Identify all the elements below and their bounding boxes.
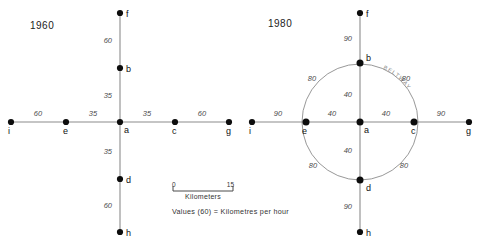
node-i-1980[interactable] [249,119,255,125]
node-f-1980[interactable] [357,10,363,16]
node-label-a-1980: a [364,125,369,135]
node-i-1960[interactable] [8,119,14,125]
edge-label-a-d-1980: 40 [344,146,353,155]
node-label-c-1980: c [411,126,416,136]
scale-bar-caption: Kilometers [185,193,221,200]
beltway-value-ne-1980: 80 [402,74,411,83]
edge-label-c-g-1980: 90 [437,109,446,118]
network-diagram-svg: 1960 60 35 35 60 60 35 35 60 f [0,0,481,250]
transport-network-figure: 1960 60 35 35 60 60 35 35 60 f [0,0,481,250]
node-label-e-1980: e [302,126,307,136]
edge-label-e-a-1960: 35 [89,109,98,118]
edge-label-f-b-1980: 90 [344,34,353,43]
node-label-d-1960: d [126,175,131,185]
node-label-h-1980: h [366,228,371,238]
beltway-value-se-1980: 80 [400,161,409,170]
node-label-c-1960: c [172,126,177,136]
node-h-1980[interactable] [357,229,363,235]
node-label-d-1980: d [366,183,371,193]
node-label-f-1980: f [366,9,369,19]
beltway-value-nw-1980: 80 [308,74,317,83]
node-b-1960[interactable] [117,65,123,71]
node-c-1960[interactable] [172,119,178,125]
node-e-1960[interactable] [63,119,69,125]
node-a-1980[interactable] [357,119,364,126]
node-label-b-1960: b [126,64,131,74]
node-label-f-1960: f [126,9,129,19]
panel-1960-year-label: 1960 [30,20,54,31]
node-b-1980[interactable] [357,60,364,67]
edge-label-e-a-1980: 40 [328,109,337,118]
edge-label-f-b-1960: 60 [104,36,113,45]
node-label-a-1960: a [124,125,129,135]
edge-label-b-a-1960: 35 [104,91,113,100]
legend-note: Values (60) = Kilometres per hour [172,207,289,216]
node-label-b-1980: b [366,53,371,63]
edge-label-c-g-1960: 60 [198,109,207,118]
node-d-1980[interactable] [357,177,364,184]
node-h-1960[interactable] [117,229,123,235]
node-e-1980[interactable] [303,119,310,126]
node-c-1980[interactable] [411,119,418,126]
edge-label-a-c-1960: 35 [143,109,152,118]
node-label-g-1960: g [226,126,231,136]
node-label-g-1980: g [466,126,471,136]
node-g-1960[interactable] [226,119,232,125]
panel-1980-year-label: 1980 [268,18,292,29]
node-g-1980[interactable] [466,119,472,125]
node-d-1960[interactable] [117,176,123,182]
node-label-i-1980: i [249,126,251,136]
beltway-value-sw-1980: 80 [309,161,318,170]
edge-label-i-e-1980: 90 [274,109,283,118]
edge-label-a-d-1960: 35 [104,147,113,156]
node-label-e-1960: e [63,126,68,136]
scale-bar: 0 15 Kilometers [172,181,234,200]
panel-1980: 1980 BELTWAY 80 80 80 80 [249,9,472,238]
edge-label-d-h-1960: 60 [104,201,113,210]
edge-label-b-a-1980: 40 [344,90,353,99]
node-f-1960[interactable] [117,10,123,16]
node-label-h-1960: h [126,228,131,238]
node-label-i-1960: i [8,126,10,136]
edge-label-i-e-1960: 60 [34,109,43,118]
edge-label-a-c-1980: 40 [382,109,391,118]
edge-label-d-h-1980: 90 [344,202,353,211]
scale-bar-bracket [173,186,233,191]
node-a-1960[interactable] [117,119,123,125]
panel-1960: 1960 60 35 35 60 60 35 35 60 f [8,9,232,238]
